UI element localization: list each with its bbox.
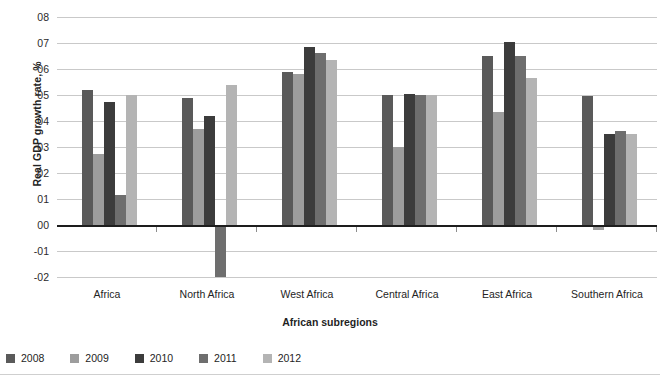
chart-legend: 20082009201020112012 <box>6 352 327 364</box>
plot-area: 080706050403020100-01-02 <box>57 17 657 277</box>
bar-2010-north-africa <box>204 116 215 225</box>
legend-item-2011[interactable]: 2011 <box>199 352 237 364</box>
x-axis-tick-label: East Africa <box>482 288 532 300</box>
legend-label: 2012 <box>278 352 301 364</box>
legend-item-2009[interactable]: 2009 <box>70 352 108 364</box>
bar-2008-africa <box>82 90 93 225</box>
legend-swatch-icon <box>70 354 79 363</box>
bar-2011-north-africa <box>215 225 226 277</box>
bar-chart: Real GDP growth rate, % 0807060504030201… <box>0 0 660 377</box>
x-axis-tick-label: North Africa <box>180 288 235 300</box>
bar-2009-north-africa <box>193 129 204 225</box>
bar-group <box>157 17 257 277</box>
y-axis-tick-label: 04 <box>37 115 49 127</box>
legend-item-2008[interactable]: 2008 <box>6 352 44 364</box>
bar-2009-africa <box>93 154 104 226</box>
y-axis-tick-label: 03 <box>37 141 49 153</box>
bar-2010-east-africa <box>504 42 515 225</box>
legend-swatch-icon <box>199 354 208 363</box>
legend-swatch-icon <box>135 354 144 363</box>
y-axis-tick-label: -02 <box>34 271 49 283</box>
bar-group <box>257 17 357 277</box>
bar-group <box>57 17 157 277</box>
bar-2011-africa <box>115 195 126 225</box>
bar-2012-southern-africa <box>626 134 637 225</box>
bar-group <box>457 17 557 277</box>
bar-2008-southern-africa <box>582 96 593 225</box>
bar-2010-west-africa <box>304 47 315 225</box>
legend-item-2012[interactable]: 2012 <box>263 352 301 364</box>
y-axis-tick-label: -01 <box>34 245 49 257</box>
x-axis-title: African subregions <box>0 316 660 328</box>
y-axis-tick-label: 08 <box>37 11 49 23</box>
bar-group <box>557 17 657 277</box>
x-axis-tick-label: Central Africa <box>375 288 438 300</box>
bar-2008-central-africa <box>382 95 393 225</box>
bar-2012-north-africa <box>226 85 237 225</box>
bar-2011-central-africa <box>415 95 426 225</box>
bar-2010-central-africa <box>404 94 415 225</box>
gridline: -02 <box>57 277 657 278</box>
bar-2008-north-africa <box>182 98 193 225</box>
bar-2010-africa <box>104 102 115 226</box>
y-axis-tick-label: 07 <box>37 37 49 49</box>
bar-2011-southern-africa <box>615 131 626 225</box>
legend-label: 2008 <box>21 352 44 364</box>
bar-2009-east-africa <box>493 112 504 225</box>
bottom-divider <box>0 374 660 375</box>
bar-2012-africa <box>126 95 137 225</box>
bar-2011-east-africa <box>515 56 526 225</box>
legend-item-2010[interactable]: 2010 <box>135 352 173 364</box>
legend-swatch-icon <box>263 354 272 363</box>
y-axis-tick-label: 06 <box>37 63 49 75</box>
y-axis-tick-label: 05 <box>37 89 49 101</box>
x-axis-tick-label: Africa <box>94 288 121 300</box>
bar-2009-central-africa <box>393 147 404 225</box>
bar-group <box>357 17 457 277</box>
zero-axis-line: 00 <box>57 225 657 227</box>
bar-2012-west-africa <box>326 60 337 225</box>
y-axis-tick-label: 00 <box>37 219 49 231</box>
bar-2012-east-africa <box>526 78 537 225</box>
y-axis-tick-label: 01 <box>37 193 49 205</box>
bar-2012-central-africa <box>426 95 437 225</box>
bar-2008-east-africa <box>482 56 493 225</box>
y-axis-tick-label: 02 <box>37 167 49 179</box>
bar-2009-west-africa <box>293 74 304 225</box>
legend-swatch-icon <box>6 354 15 363</box>
legend-label: 2009 <box>85 352 108 364</box>
bar-2008-west-africa <box>282 72 293 225</box>
legend-label: 2011 <box>214 352 237 364</box>
x-axis-tick-label: West Africa <box>281 288 334 300</box>
bar-2010-southern-africa <box>604 134 615 225</box>
legend-label: 2010 <box>150 352 173 364</box>
x-axis-tick-label: Southern Africa <box>571 288 643 300</box>
bar-2011-west-africa <box>315 53 326 225</box>
